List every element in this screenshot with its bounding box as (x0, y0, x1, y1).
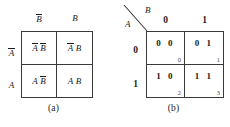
overbar-B: B (40, 75, 46, 86)
overbar-A: A (68, 42, 74, 53)
cell-minterm-index: 3 (217, 89, 220, 96)
cell-values: 0 1 (185, 38, 223, 48)
cell-values: 1 0 (147, 71, 184, 81)
minterm-expression: AB (32, 42, 46, 53)
label-B: B (76, 76, 82, 86)
panel-b-cell-1: 0 1 1 (185, 32, 223, 65)
minterm-expression: AB (68, 76, 82, 86)
overbar-B: B (40, 42, 46, 53)
panel-b-cell-2: 1 0 2 (147, 65, 185, 98)
overbar-A: A (9, 47, 15, 58)
panel-b-row-variable-label: A (125, 19, 131, 29)
panel-b-cell-0: 0 0 0 (147, 32, 185, 65)
panel-b-column-variable-label: B (145, 5, 151, 15)
cell-minterm-index: 2 (178, 89, 181, 96)
overbar-B: B (36, 13, 42, 24)
label-A: A (9, 80, 15, 90)
panel-b-row-header-1: 1 (129, 79, 142, 89)
panel-b: B A 0 1 0 1 0 0 0 0 1 1 1 0 2 1 1 3 (115, 0, 230, 127)
cell-minterm-index: 1 (217, 56, 220, 63)
panel-a: B B A A AB AB AB (0, 0, 115, 127)
panel-a-cell-1: AB (57, 32, 92, 65)
panel-a-grid: AB AB AB AB (21, 31, 93, 98)
panel-a-cell-3: AB (57, 65, 92, 98)
panel-b-column-header-0: 0 (146, 15, 185, 25)
cell-values: 1 1 (185, 71, 223, 81)
label-B: B (76, 43, 82, 53)
label-B: B (72, 13, 78, 23)
panel-a-row-header-0: A (4, 47, 19, 58)
cell-values: 0 0 (147, 38, 184, 48)
overbar-A: A (32, 42, 38, 53)
cell-minterm-index: 0 (178, 56, 181, 63)
panel-a-cell-2: AB (22, 65, 57, 98)
panel-a-cell-0: AB (22, 32, 57, 65)
panel-b-column-header-1: 1 (185, 15, 224, 25)
panel-b-grid: 0 0 0 0 1 1 1 0 2 1 1 3 (146, 31, 224, 98)
panel-a-column-header-0: B (21, 13, 57, 24)
minterm-expression: AB (68, 42, 82, 53)
figure-karnaugh-maps: B B A A AB AB AB (0, 0, 230, 127)
label-A: A (68, 76, 74, 86)
panel-b-row-header-0: 0 (129, 45, 142, 55)
panel-a-caption: (a) (0, 103, 111, 113)
panel-a-column-header-1: B (57, 13, 93, 23)
panel-b-cell-3: 1 1 3 (185, 65, 223, 98)
label-A: A (32, 76, 38, 86)
panel-a-row-header-1: A (4, 80, 19, 90)
minterm-expression: AB (32, 75, 46, 86)
panel-b-caption: (b) (116, 103, 230, 113)
